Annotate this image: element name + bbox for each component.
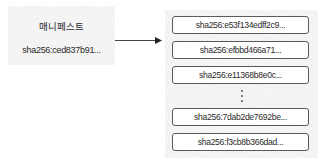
manifest-digest: sha256:ced837b91...: [8, 45, 115, 55]
manifest-box: 매니페스트 sha256:ced837b91...: [8, 6, 115, 65]
vertical-ellipsis-icon: [165, 89, 318, 105]
layers-box: sha256:e53f134edff2c9... sha256:efbbd466…: [165, 10, 318, 158]
layer-digest-box: sha256:e53f134edff2c9...: [172, 16, 309, 34]
manifest-title: 매니페스트: [8, 19, 115, 33]
layer-digest-box: sha256:efbbd466a71...: [172, 41, 309, 59]
arrow-right-icon: [115, 36, 163, 46]
layer-digest-box: sha256:7dab2de7692be...: [172, 108, 309, 126]
layer-digest-box: sha256:e11368b8e0c...: [172, 66, 309, 84]
layer-digest-box: sha256:f3cb8b366dad...: [172, 133, 309, 151]
